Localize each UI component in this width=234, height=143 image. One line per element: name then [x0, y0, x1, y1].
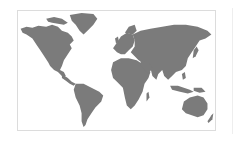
- region-europe: [113, 33, 135, 55]
- region-south-america: [74, 84, 104, 127]
- region-north-america: [21, 25, 74, 76]
- region-greenland: [70, 13, 98, 35]
- region-new-guinea: [194, 88, 206, 93]
- region-new-zealand: [207, 113, 213, 123]
- region-arctic-islands: [46, 17, 68, 25]
- region-indonesia: [170, 86, 194, 94]
- region-australia: [182, 96, 208, 118]
- region-philippines: [182, 72, 186, 80]
- page-edge: [232, 8, 233, 134]
- world-map-frame: [17, 10, 216, 131]
- world-map: [18, 11, 215, 130]
- region-madagascar: [146, 92, 149, 102]
- region-central-america: [62, 74, 76, 86]
